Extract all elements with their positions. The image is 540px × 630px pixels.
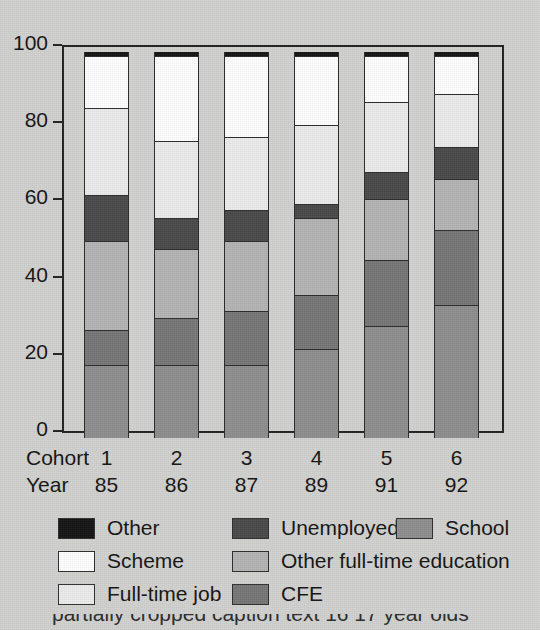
bar-cohort-2[interactable] bbox=[154, 52, 199, 438]
bar-segment-cfe[interactable] bbox=[85, 330, 128, 365]
plot-area: 020406080100 bbox=[62, 40, 504, 438]
x-axis-labels: Cohort Year 185286387489591692 bbox=[0, 444, 540, 500]
x-label-year-86: 86 bbox=[154, 473, 199, 497]
bar-segment-cfe[interactable] bbox=[435, 230, 478, 305]
legend-item-full-time-job[interactable]: Full-time job bbox=[58, 582, 221, 606]
y-tick-mark bbox=[53, 353, 62, 355]
bar-segment-school[interactable] bbox=[435, 305, 478, 438]
bar-segment-school[interactable] bbox=[155, 365, 198, 438]
y-tick-label: 60 bbox=[0, 185, 48, 209]
x-label-year-89: 89 bbox=[294, 473, 339, 497]
bar-segment-cfe[interactable] bbox=[155, 318, 198, 364]
legend-item-other[interactable]: Other bbox=[58, 516, 160, 540]
bar-segment-school[interactable] bbox=[85, 365, 128, 438]
y-tick-label: 80 bbox=[0, 108, 48, 132]
x-label-year-85: 85 bbox=[84, 473, 129, 497]
bar-segment-unemployed[interactable] bbox=[435, 147, 478, 180]
legend-swatch-icon bbox=[232, 518, 269, 539]
legend-label: Scheme bbox=[107, 549, 184, 573]
bar-segment-scheme[interactable] bbox=[85, 56, 128, 108]
legend-swatch-icon bbox=[58, 551, 95, 572]
bar-segment-scheme[interactable] bbox=[295, 56, 338, 125]
legend-item-cfe[interactable]: CFE bbox=[232, 582, 323, 606]
bar-segment-school[interactable] bbox=[295, 349, 338, 438]
legend-item-unemployed[interactable]: Unemployed bbox=[232, 516, 399, 540]
bar-cohort-5[interactable] bbox=[364, 52, 409, 438]
bar-segment-school[interactable] bbox=[365, 326, 408, 438]
bar-segment-unemployed[interactable] bbox=[295, 204, 338, 218]
bar-segment-full-time-job[interactable] bbox=[365, 102, 408, 171]
legend-label: Unemployed bbox=[281, 516, 399, 540]
bar-segment-scheme[interactable] bbox=[365, 56, 408, 102]
x-label-year-91: 91 bbox=[364, 473, 409, 497]
y-tick-mark bbox=[53, 121, 62, 123]
y-tick-label: 40 bbox=[0, 263, 48, 287]
legend-label: School bbox=[445, 516, 509, 540]
y-tick-label: 20 bbox=[0, 340, 48, 364]
y-tick-mark bbox=[53, 430, 62, 432]
bar-segment-other-full-time-education[interactable] bbox=[85, 241, 128, 330]
legend-label: Full-time job bbox=[107, 582, 221, 606]
legend-swatch-icon bbox=[58, 518, 95, 539]
y-tick-label: 0 bbox=[0, 417, 48, 441]
x-label-cohort-2: 2 bbox=[154, 446, 199, 470]
bar-segment-cfe[interactable] bbox=[295, 295, 338, 349]
axis-y-spine bbox=[62, 45, 64, 433]
y-tick-label: 100 bbox=[0, 31, 48, 55]
row-title-year: Year bbox=[26, 473, 68, 497]
bar-cohort-1[interactable] bbox=[84, 52, 129, 438]
legend-swatch-icon bbox=[58, 584, 95, 605]
axis-top-spine bbox=[62, 45, 504, 47]
x-label-cohort-5: 5 bbox=[364, 446, 409, 470]
bar-segment-unemployed[interactable] bbox=[225, 210, 268, 241]
x-label-year-92: 92 bbox=[434, 473, 479, 497]
bar-segment-full-time-job[interactable] bbox=[295, 125, 338, 204]
y-tick-mark bbox=[53, 44, 62, 46]
y-tick-mark bbox=[53, 198, 62, 200]
axis-right-spine bbox=[502, 45, 504, 433]
bar-segment-other-full-time-education[interactable] bbox=[435, 179, 478, 229]
bar-cohort-4[interactable] bbox=[294, 52, 339, 438]
bar-segment-unemployed[interactable] bbox=[155, 218, 198, 249]
bar-segment-other-full-time-education[interactable] bbox=[365, 199, 408, 261]
bar-segment-scheme[interactable] bbox=[435, 56, 478, 95]
legend-swatch-icon bbox=[396, 518, 433, 539]
legend-item-scheme[interactable]: Scheme bbox=[58, 549, 184, 573]
row-title-cohort: Cohort bbox=[26, 446, 89, 470]
bar-segment-unemployed[interactable] bbox=[85, 195, 128, 241]
bar-segment-full-time-job[interactable] bbox=[225, 137, 268, 210]
bar-segment-full-time-job[interactable] bbox=[155, 141, 198, 218]
bar-segment-cfe[interactable] bbox=[225, 311, 268, 365]
legend-item-school[interactable]: School bbox=[396, 516, 509, 540]
x-label-cohort-6: 6 bbox=[434, 446, 479, 470]
bar-segment-scheme[interactable] bbox=[225, 56, 268, 137]
legend-swatch-icon bbox=[232, 584, 269, 605]
chart-legend: OtherUnemployedSchoolSchemeOther full-ti… bbox=[0, 516, 540, 606]
bar-segment-full-time-job[interactable] bbox=[435, 94, 478, 146]
cropped-caption: partially cropped caption text 16 17 yea… bbox=[0, 614, 540, 630]
x-label-cohort-1: 1 bbox=[84, 446, 129, 470]
bar-segment-full-time-job[interactable] bbox=[85, 108, 128, 195]
y-tick-mark bbox=[53, 276, 62, 278]
legend-swatch-icon bbox=[232, 551, 269, 572]
bar-segment-other-full-time-education[interactable] bbox=[225, 241, 268, 310]
bar-segment-other-full-time-education[interactable] bbox=[295, 218, 338, 295]
legend-label: CFE bbox=[281, 582, 323, 606]
x-label-year-87: 87 bbox=[224, 473, 269, 497]
legend-item-other-full-time-education[interactable]: Other full-time education bbox=[232, 549, 510, 573]
legend-label: Other full-time education bbox=[281, 549, 510, 573]
bar-cohort-3[interactable] bbox=[224, 52, 269, 438]
bar-cohort-6[interactable] bbox=[434, 52, 479, 438]
bar-segment-scheme[interactable] bbox=[155, 56, 198, 141]
bar-segment-cfe[interactable] bbox=[365, 260, 408, 326]
cropped-caption-text: partially cropped caption text 16 17 yea… bbox=[52, 614, 469, 626]
bar-segment-school[interactable] bbox=[225, 365, 268, 438]
bar-segment-unemployed[interactable] bbox=[365, 172, 408, 199]
legend-label: Other bbox=[107, 516, 160, 540]
stacked-bar-chart-figure: 020406080100 Cohort Year 185286387489591… bbox=[0, 0, 540, 630]
x-label-cohort-3: 3 bbox=[224, 446, 269, 470]
x-label-cohort-4: 4 bbox=[294, 446, 339, 470]
bar-segment-other-full-time-education[interactable] bbox=[155, 249, 198, 318]
